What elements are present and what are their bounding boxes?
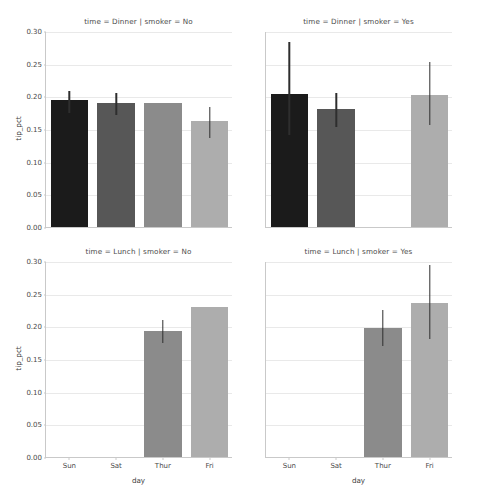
bar-lunch-no-fri [191,307,228,457]
y-tick-label: 0.10 [26,389,42,397]
x-tick-mark [336,457,337,460]
y-tick-label: 0.05 [26,421,42,429]
facet-panel-lunch-yes: time = Lunch | smoker = YesSunSatThurFri [265,262,452,458]
y-tick-mark [44,64,47,65]
x-tick-mark [116,457,117,460]
facet-panel-lunch-no: time = Lunch | smoker = No0.000.050.100.… [45,262,232,458]
gridline-y [46,97,232,98]
errorbar-dinner-no-sun [69,91,70,113]
bar-lunch-yes-thur [364,328,401,457]
x-axis-label-col-1: day [265,476,452,485]
y-axis-label-row-1: tip_pct [14,345,23,373]
y-tick-mark [44,130,47,131]
plot-area-dinner-no: 0.000.050.100.150.200.250.30 [45,32,232,228]
errorbar-lunch-no-thur [162,320,163,343]
x-tick-mark [382,457,383,460]
bar-dinner-yes-sat [317,109,354,227]
y-tick-label: 0.05 [26,191,42,199]
errorbar-dinner-no-sat [115,93,116,115]
errorbar-dinner-yes-sun [289,42,290,134]
x-tick-label-fri: Fri [205,462,213,470]
y-tick-mark [44,162,47,163]
bar-dinner-no-thur [144,103,181,227]
plot-area-lunch-yes: SunSatThurFri [265,262,452,458]
gridline-y [46,295,232,296]
figure-canvas: time = Dinner | smoker = No0.000.050.100… [0,0,478,501]
y-tick-label: 0.30 [26,258,42,266]
x-axis-label-col-0: day [45,476,232,485]
x-tick-label-sat: Sat [110,462,121,470]
x-tick-label-fri: Fri [425,462,433,470]
facet-panel-dinner-yes: time = Dinner | smoker = Yes [265,32,452,228]
x-tick-label-thur: Thur [155,462,171,470]
y-tick-label: 0.10 [26,159,42,167]
facet-title-dinner-yes: time = Dinner | smoker = Yes [265,17,452,26]
facet-title-lunch-yes: time = Lunch | smoker = Yes [265,247,452,256]
gridline-y [46,32,232,33]
errorbar-dinner-yes-sat [335,93,336,127]
y-tick-label: 0.20 [26,323,42,331]
facet-title-dinner-no: time = Dinner | smoker = No [45,17,232,26]
y-tick-label: 0.30 [26,28,42,36]
x-tick-mark [289,457,290,460]
bar-dinner-no-sun [51,100,88,227]
x-tick-mark [209,457,210,460]
errorbar-lunch-yes-fri [429,265,430,339]
gridline-y [266,295,452,296]
y-tick-mark [44,327,47,328]
y-tick-mark [44,32,47,33]
y-tick-label: 0.00 [26,454,42,462]
x-tick-label-thur: Thur [375,462,391,470]
y-tick-mark [44,294,47,295]
bar-lunch-no-thur [144,331,181,457]
y-tick-mark [44,97,47,98]
gridline-y [266,262,452,263]
plot-area-dinner-yes [265,32,452,228]
y-tick-label: 0.15 [26,126,42,134]
gridline-y [46,262,232,263]
y-tick-mark [44,228,47,229]
y-tick-mark [44,392,47,393]
gridline-y [266,32,452,33]
y-tick-mark [44,360,47,361]
x-tick-mark [162,457,163,460]
y-tick-mark [44,195,47,196]
facet-title-lunch-no: time = Lunch | smoker = No [45,247,232,256]
x-tick-label-sun: Sun [63,462,76,470]
y-tick-label: 0.15 [26,356,42,364]
y-tick-label: 0.20 [26,93,42,101]
x-tick-label-sat: Sat [330,462,341,470]
x-tick-mark [69,457,70,460]
x-tick-mark [429,457,430,460]
errorbar-lunch-yes-thur [382,310,383,346]
y-tick-mark [44,262,47,263]
plot-area-lunch-no: 0.000.050.100.150.200.250.30SunSatThurFr… [45,262,232,458]
y-tick-mark [44,458,47,459]
y-tick-label: 0.25 [26,291,42,299]
bar-dinner-no-sat [97,103,134,227]
y-tick-label: 0.25 [26,61,42,69]
errorbar-dinner-yes-fri [429,62,430,125]
y-tick-label: 0.00 [26,224,42,232]
y-tick-mark [44,425,47,426]
x-tick-label-sun: Sun [283,462,296,470]
gridline-y [266,65,452,66]
errorbar-dinner-no-fri [209,107,210,138]
y-axis-label-row-0: tip_pct [14,115,23,143]
facet-panel-dinner-no: time = Dinner | smoker = No0.000.050.100… [45,32,232,228]
gridline-y [46,65,232,66]
